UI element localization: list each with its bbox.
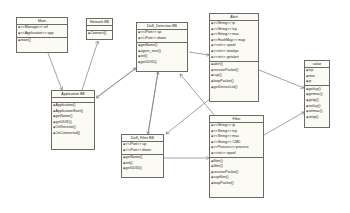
- class-name: Main: [17, 18, 67, 25]
- class-name: Alert: [210, 14, 258, 21]
- attributes: <<String>> ip <<String>> tcp <<String>> …: [210, 123, 263, 159]
- attribute: <<iPort>> down: [138, 36, 186, 42]
- method: setip(): [306, 115, 328, 121]
- method: loopPacket(): [211, 181, 262, 187]
- methods: filter() filter() receivePacket() capfil…: [210, 158, 263, 187]
- class-main[interactable]: Main <<Manager>> wf <<Application>> app …: [16, 17, 68, 53]
- methods: getName() agent_start() init() getUUID(): [137, 43, 187, 66]
- attributes: <<String>> ip <<String>> tcp <<String>> …: [210, 21, 258, 62]
- method: OnConnected(): [53, 131, 93, 137]
- class-alert[interactable]: Alert <<String>> ip <<String>> tcp <<Str…: [209, 13, 259, 102]
- class-filter[interactable]: Filter <<String>> ip <<String>> tcp <<St…: [209, 115, 264, 198]
- class-value[interactable]: value tcp mac ip getIcp() getmac() getip…: [304, 60, 330, 128]
- method: getUUID(): [138, 60, 186, 66]
- attribute: <<int>> spoof: [211, 151, 262, 157]
- methods: main(): [17, 38, 67, 45]
- class-name: DoS_Filter BB: [122, 135, 163, 142]
- attributes: <<iPort>> up <<iPort>> down: [137, 30, 187, 43]
- attribute: ip: [306, 79, 328, 85]
- class-dos-filter-bb[interactable]: DoS_Filter BB <<iPort>> up <<iPort>> dow…: [121, 134, 164, 178]
- attribute: <<iPort>> down: [123, 148, 162, 154]
- methods: getName() init() getUUID(): [122, 155, 163, 173]
- attributes: <<Manager>> wf <<Application>> app: [17, 25, 67, 38]
- methods: getIcp() getmac() getip() setIcp() setma…: [305, 86, 329, 121]
- method: Connect(): [88, 31, 111, 37]
- class-network-bb[interactable]: Network BB Connect(): [86, 18, 113, 40]
- methods: Application() ApplicationStart() getName…: [52, 103, 94, 138]
- method: getUUID(): [123, 166, 162, 172]
- attribute: <<int>> getalert: [211, 55, 257, 61]
- method: main(): [18, 38, 66, 44]
- class-name: Filter: [210, 116, 263, 123]
- class-name: Network BB: [87, 19, 112, 26]
- method: getDeviceList(): [211, 85, 257, 91]
- attributes: <<iPort>> up <<iPort>> down: [122, 142, 163, 155]
- class-name: value: [305, 61, 329, 68]
- class-name: DoS_Detection BB: [137, 23, 187, 30]
- class-name: Application BB: [52, 91, 94, 98]
- attributes: tcp mac ip: [305, 68, 329, 87]
- methods: Connect(): [87, 31, 112, 38]
- methods: alert() receivePacket() cap() loopPacket…: [210, 62, 258, 91]
- attribute: <<Application>> app: [18, 31, 66, 37]
- class-dos-detection-bb[interactable]: DoS_Detection BB <<iPort>> up <<iPort>> …: [136, 22, 188, 72]
- class-application-bb[interactable]: Application BB Application() Application…: [51, 90, 95, 150]
